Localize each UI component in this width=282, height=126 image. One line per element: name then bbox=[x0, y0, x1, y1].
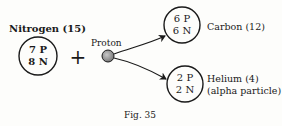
diagram-canvas: Nitrogen (15) 7 P 8 N + Proton 6 P 6 N C… bbox=[0, 0, 282, 126]
helium-neutrons: 2 N bbox=[176, 84, 195, 95]
carbon-neutrons: 6 N bbox=[173, 25, 192, 36]
nitrogen-label: Nitrogen (15) bbox=[9, 23, 86, 34]
carbon-nucleus: 6 P 6 N Carbon (12) bbox=[164, 7, 265, 43]
carbon-label: Carbon (12) bbox=[207, 21, 265, 32]
arrow-to-carbon-icon bbox=[114, 36, 165, 54]
plus-operator: + bbox=[70, 45, 87, 69]
nitrogen-neutrons: 8 N bbox=[28, 56, 48, 67]
figure-caption: Fig. 35 bbox=[124, 110, 156, 120]
carbon-protons: 6 P bbox=[174, 13, 191, 24]
proton-dot-icon bbox=[102, 50, 114, 62]
arrow-to-helium-icon bbox=[114, 58, 166, 79]
nitrogen-protons: 7 P bbox=[29, 44, 47, 55]
helium-protons: 2 P bbox=[177, 72, 194, 83]
proton-label: Proton bbox=[91, 38, 122, 48]
helium-sublabel: (alpha particle) bbox=[207, 85, 281, 96]
helium-label: Helium (4) bbox=[207, 73, 259, 84]
helium-nucleus: 2 P 2 N Helium (4) (alpha particle) bbox=[167, 66, 281, 102]
nuclear-reaction-diagram: Nitrogen (15) 7 P 8 N + Proton 6 P 6 N C… bbox=[0, 0, 282, 126]
